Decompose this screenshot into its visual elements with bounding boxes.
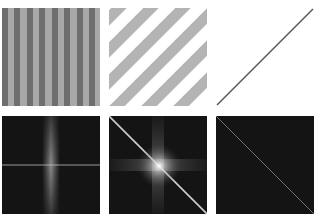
diagonal-stripes-image xyxy=(109,8,207,106)
vertical-stripes-image xyxy=(2,8,100,106)
diagonal-line-image xyxy=(216,8,314,106)
spectrum-vertical-band xyxy=(2,116,100,214)
spectrum-diagonal-line xyxy=(216,116,314,214)
spectrum-diagonal-cross xyxy=(109,116,207,214)
